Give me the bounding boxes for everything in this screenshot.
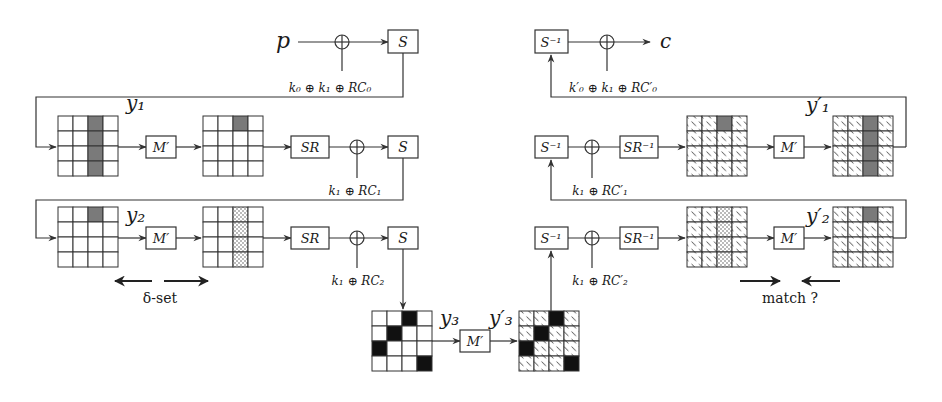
grid-cell — [248, 116, 263, 131]
grid-cell — [732, 222, 747, 237]
state-y1-label: y₁ — [125, 91, 145, 115]
grid-cell — [402, 326, 417, 341]
grid-cell — [534, 341, 549, 356]
state-grid-L2b — [203, 207, 263, 267]
grid-cell — [103, 161, 118, 176]
state-y2-label: y₂ — [125, 203, 145, 227]
grid-cell — [687, 146, 702, 161]
grid-cell — [387, 356, 402, 371]
grid-cell — [833, 252, 848, 267]
grid-cell — [248, 252, 263, 267]
grid-cell — [248, 131, 263, 146]
grid-cell — [732, 131, 747, 146]
state-grid-R1a — [687, 116, 747, 176]
grid-cell — [717, 116, 732, 131]
xor-icon — [335, 35, 349, 49]
sbox-label: S — [398, 230, 408, 246]
xor-icon — [350, 231, 364, 245]
grid-cell — [687, 207, 702, 222]
grid-cell — [88, 207, 103, 222]
middle-round: y₃ y′₃ M′ — [432, 306, 517, 352]
grid-cell — [218, 146, 233, 161]
grid-cell — [687, 161, 702, 176]
grid-cell — [702, 131, 717, 146]
grid-cell — [203, 131, 218, 146]
grid-cell — [103, 116, 118, 131]
state-grid-R2b — [833, 207, 893, 267]
grid-cell — [58, 116, 73, 131]
grid-cell — [233, 146, 248, 161]
grid-cell — [248, 222, 263, 237]
grid-cell — [863, 161, 878, 176]
shiftrows-label: SR — [301, 140, 320, 155]
grid-cell — [372, 341, 387, 356]
grid-cell — [103, 237, 118, 252]
state-grid-R1b — [833, 116, 893, 176]
grid-cell — [218, 161, 233, 176]
grid-cell — [73, 131, 88, 146]
grid-cell — [58, 207, 73, 222]
grid-cell — [732, 237, 747, 252]
match-label: match ? — [762, 290, 818, 306]
grid-cell — [564, 356, 579, 371]
grid-cell — [387, 326, 402, 341]
grid-cell — [58, 161, 73, 176]
grid-cell — [218, 222, 233, 237]
grid-cell — [402, 356, 417, 371]
grid-cell — [687, 116, 702, 131]
grid-cell — [248, 146, 263, 161]
key-label-k0p: k′₀ ⊕ k₁ ⊕ RC′₀ — [569, 81, 657, 95]
grid-cell — [203, 237, 218, 252]
shiftrows-inv-label: SR⁻¹ — [624, 140, 655, 155]
grid-cell — [372, 326, 387, 341]
grid-cell — [863, 131, 878, 146]
grid-cell — [73, 237, 88, 252]
grid-cell — [863, 252, 878, 267]
grid-cell — [717, 237, 732, 252]
grid-cell — [702, 146, 717, 161]
grid-cell — [519, 326, 534, 341]
sbox-inv-label: S⁻¹ — [541, 140, 562, 155]
grid-cell — [417, 356, 432, 371]
grid-cell — [73, 146, 88, 161]
grid-cell — [387, 311, 402, 326]
grid-cell — [702, 161, 717, 176]
grid-cell — [878, 237, 893, 252]
grid-cell — [687, 131, 702, 146]
sbox-label: S — [398, 139, 408, 155]
grid-cell — [878, 207, 893, 222]
grid-cell — [248, 161, 263, 176]
grid-cell — [233, 237, 248, 252]
grid-cell — [833, 116, 848, 131]
xor-icon — [600, 35, 614, 49]
grid-cell — [702, 222, 717, 237]
state-grid-Y3p — [519, 311, 579, 371]
grid-cell — [848, 146, 863, 161]
grid-cell — [717, 207, 732, 222]
grid-cell — [519, 356, 534, 371]
row2-left: y₂ M′ SR S k₁ ⊕ RC₂ δ-set — [115, 203, 418, 309]
grid-cell — [203, 116, 218, 131]
grid-cell — [387, 341, 402, 356]
grid-cell — [103, 131, 118, 146]
grid-cell — [203, 146, 218, 161]
grid-cell — [519, 341, 534, 356]
mix-label: M′ — [466, 334, 483, 349]
grid-cell — [372, 356, 387, 371]
grid-cell — [878, 116, 893, 131]
grid-cell — [88, 252, 103, 267]
grid-cell — [88, 146, 103, 161]
grid-cell — [848, 207, 863, 222]
state-grid-L2a — [58, 207, 118, 267]
grid-cell — [833, 146, 848, 161]
diagram-canvas: p S k₀ ⊕ k₁ ⊕ RC₀ S⁻¹ c k′₀ ⊕ k₁ ⊕ RC′₀ … — [0, 0, 942, 402]
key-label-rc1: k₁ ⊕ RC₁ — [329, 184, 382, 198]
grid-cell — [233, 222, 248, 237]
grid-cell — [848, 237, 863, 252]
grid-cell — [218, 252, 233, 267]
grid-cell — [417, 326, 432, 341]
grid-cell — [218, 116, 233, 131]
grid-cell — [702, 252, 717, 267]
key-label-rc2p: k₁ ⊕ RC′₂ — [572, 274, 628, 288]
grid-cell — [732, 207, 747, 222]
